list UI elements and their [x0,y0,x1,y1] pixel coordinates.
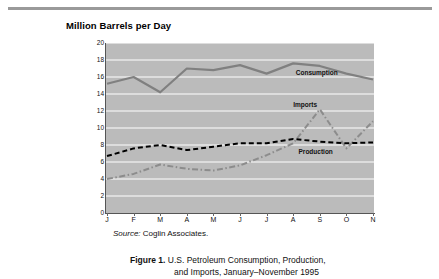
x-axis-tick-march: M [157,216,163,223]
x-axis-tickmark [267,213,268,216]
x-axis-tickmark [187,213,188,216]
caption-line-2: and Imports, January–November 1995 [174,267,430,279]
figure-caption: Figure 1. U.S. Petroleum Consumption, Pr… [130,255,430,278]
x-axis-tickmark [213,213,214,216]
x-axis-tick-may: M [210,216,216,223]
source-prefix: Source: [113,229,141,238]
source-note: Source: Coglin Associates. [113,229,208,238]
x-axis-tickmark [346,213,347,216]
series-label-imports: Imports [293,102,317,109]
series-label-production: Production [299,149,333,156]
x-axis-tickmark [293,213,294,216]
x-axis-tick-april: A [184,216,189,223]
y-axis-tick-labels: 02468101214161820 [88,43,104,213]
x-axis-tickmark [240,213,241,216]
source-text: Coglin Associates. [141,229,209,238]
plot-area: ConsumptionImportsProduction [106,43,374,213]
x-axis-tick-june: J [238,216,242,223]
x-axis-tickmark [320,213,321,216]
y-axis-tick-4: 4 [88,176,104,183]
caption-label: Figure 1. [130,255,165,265]
x-axis-tickmark [373,213,374,216]
x-axis-tick-august: A [291,216,296,223]
x-axis-tick-january: J [105,216,109,223]
y-axis-tick-14: 14 [88,91,104,98]
x-axis-tick-february: F [131,216,135,223]
series-line-imports [107,109,373,179]
y-axis-tick-10: 10 [88,125,104,132]
x-axis-tickmark [134,213,135,216]
x-axis-tick-november: N [370,216,375,223]
chart-title: Million Barrels per Day [66,20,171,31]
x-axis-tick-october: O [344,216,349,223]
caption-line-1: U.S. Petroleum Consumption, Production, [165,255,325,265]
x-axis-tick-july: J [265,216,269,223]
x-axis-tick-labels: JFMAMJJASON [106,216,374,228]
x-axis-tickmark [107,213,108,216]
x-axis-tickmark [160,213,161,216]
figure-area: Million Barrels per Day 0246810121416182… [0,0,439,279]
series-line-consumption [107,63,373,92]
y-axis-tick-16: 16 [88,74,104,81]
y-axis-tick-0: 0 [88,210,104,217]
y-axis-tick-2: 2 [88,193,104,200]
y-axis-tick-8: 8 [88,142,104,149]
series-line-production [107,139,373,156]
figure-page: Million Barrels per Day 0246810121416182… [0,0,439,279]
y-axis-tick-18: 18 [88,57,104,64]
x-axis-tick-september: S [317,216,322,223]
y-axis-tick-6: 6 [88,159,104,166]
y-axis-tick-12: 12 [88,108,104,115]
y-axis-tick-20: 20 [88,40,104,47]
series-label-consumption: Consumption [296,70,338,77]
